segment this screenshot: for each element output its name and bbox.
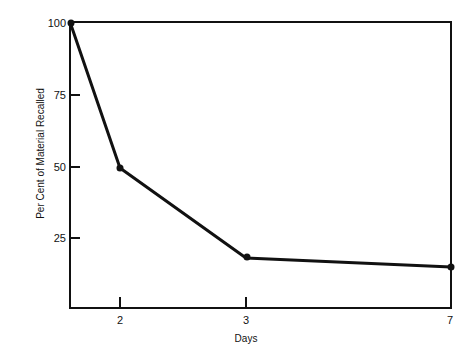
y-tick-label: 100 (36, 17, 66, 29)
x-tick-label: 2 (110, 314, 130, 326)
x-tick-label: 7 (440, 314, 460, 326)
data-points (68, 20, 455, 271)
y-ticks (70, 95, 80, 238)
x-tick-label: 3 (236, 314, 256, 326)
y-axis-title: Per Cent of Material Recalled (35, 54, 46, 254)
plot-area (0, 0, 473, 360)
recall-line (70, 22, 451, 267)
x-ticks (120, 297, 246, 308)
x-axis-title: Days (226, 333, 266, 344)
